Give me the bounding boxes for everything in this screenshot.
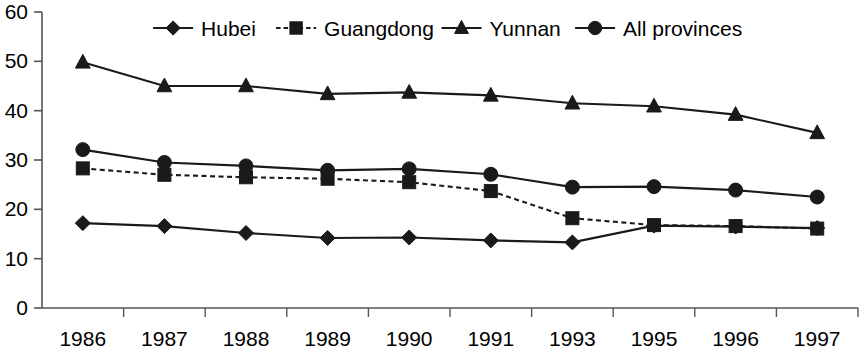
data-point-circle-marker: [484, 167, 498, 181]
data-point-circle-marker: [321, 163, 335, 177]
x-axis-tick-label: 1990: [386, 327, 433, 350]
legend-label: Yunnan: [490, 17, 561, 40]
y-axis-tick-label: 60: [5, 0, 28, 23]
x-axis-tick-label: 1989: [304, 327, 351, 350]
y-axis-tick-label: 30: [5, 148, 28, 171]
data-point-circle-marker: [157, 155, 171, 169]
legend-label: All provinces: [623, 17, 742, 40]
y-axis-tick-label: 20: [5, 197, 28, 220]
x-axis-tick-label: 1986: [59, 327, 106, 350]
data-point-circle-marker: [565, 180, 579, 194]
y-axis-tick-label: 10: [5, 247, 28, 270]
x-axis-tick-label: 1993: [549, 327, 596, 350]
x-axis-tick-label: 1997: [794, 327, 841, 350]
data-point-square-marker: [566, 212, 579, 225]
data-point-square-marker: [648, 219, 661, 232]
data-point-circle-marker: [239, 159, 253, 173]
data-point-square-marker: [484, 185, 497, 198]
data-point-square-marker: [76, 162, 89, 175]
x-axis-tick-label: 1996: [712, 327, 759, 350]
y-axis-tick-label: 40: [5, 99, 28, 122]
data-point-circle-marker: [76, 143, 90, 157]
chart-canvas: HubeiGuangdongYunnanAll provinces 605040…: [0, 0, 866, 355]
data-point-square-marker: [290, 22, 302, 34]
data-point-square-marker: [729, 220, 742, 233]
y-axis-tick-label: 50: [5, 49, 28, 72]
y-axis-tick-label: 0: [16, 296, 28, 319]
data-point-circle-marker: [402, 162, 416, 176]
data-point-circle-marker: [729, 183, 743, 197]
x-axis-tick-label: 1987: [141, 327, 188, 350]
data-point-circle-marker: [588, 21, 601, 34]
x-axis-tick-label: 1991: [467, 327, 514, 350]
data-point-square-marker: [403, 176, 416, 189]
data-point-square-marker: [158, 168, 171, 181]
line-chart: HubeiGuangdongYunnanAll provinces 605040…: [0, 0, 866, 355]
x-axis-tick-label: 1988: [223, 327, 270, 350]
chart-background: [0, 0, 866, 355]
data-point-square-marker: [811, 222, 824, 235]
x-axis-tick-label: 1995: [631, 327, 678, 350]
legend-label: Hubei: [201, 17, 256, 40]
data-point-circle-marker: [810, 190, 824, 204]
data-point-circle-marker: [647, 180, 661, 194]
legend-label: Guangdong: [324, 17, 434, 40]
